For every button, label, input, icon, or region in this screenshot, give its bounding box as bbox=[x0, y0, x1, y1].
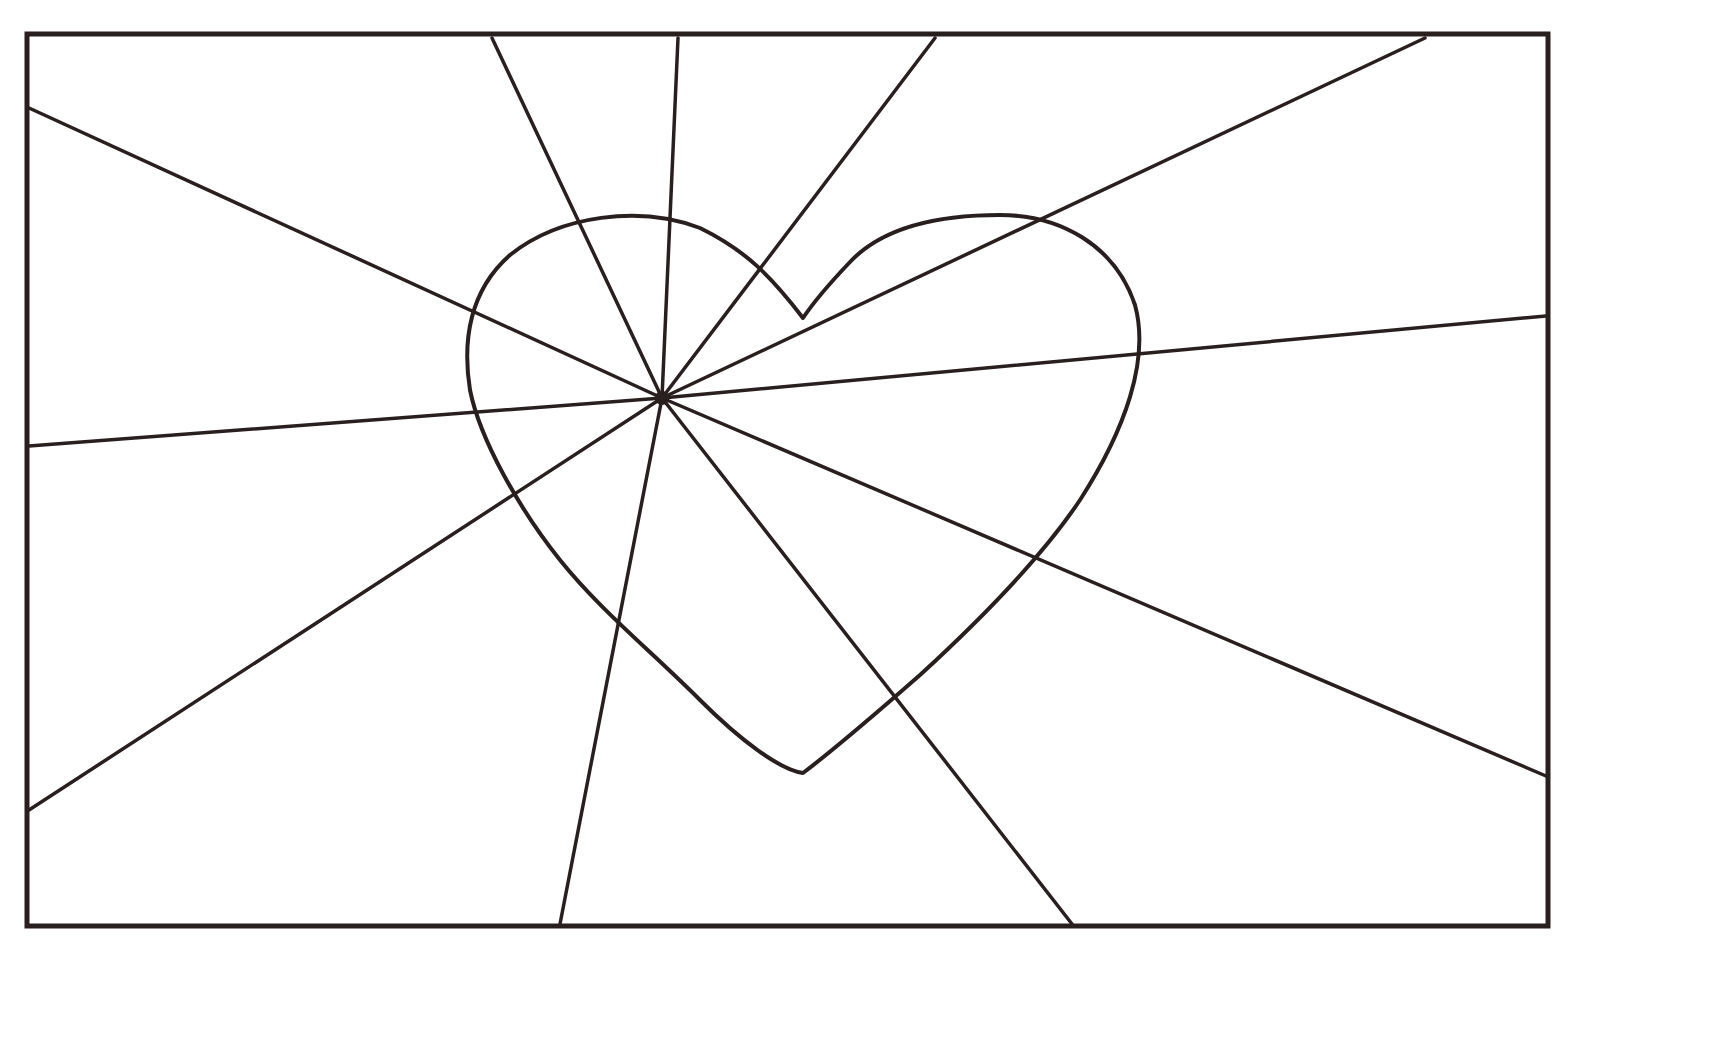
page-background bbox=[0, 0, 1728, 1038]
coloring-page-canvas bbox=[0, 0, 1728, 1038]
center-point bbox=[655, 391, 669, 405]
